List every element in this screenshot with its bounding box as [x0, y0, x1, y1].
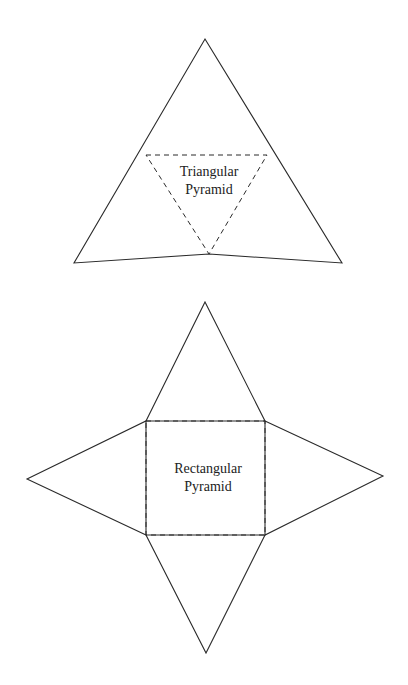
rectangular-net-base-fold — [146, 421, 265, 535]
rectangular-label-line1: Rectangular — [174, 461, 242, 476]
rectangular-net-left-face — [27, 421, 146, 535]
rectangular-net-right-face — [265, 421, 383, 535]
triangular-net-outline — [74, 39, 342, 263]
triangular-label-line1: Triangular — [180, 164, 239, 179]
triangular-pyramid-net: Triangular Pyramid — [74, 39, 342, 263]
triangular-label-line2: Pyramid — [185, 182, 232, 197]
pyramid-nets-diagram: Triangular Pyramid Rectangular Pyramid — [0, 0, 408, 685]
rectangular-net-bottom-face — [146, 535, 265, 653]
rectangular-label-line2: Pyramid — [184, 479, 231, 494]
rectangular-pyramid-net: Rectangular Pyramid — [27, 302, 383, 653]
rectangular-net-top-face — [146, 302, 265, 421]
